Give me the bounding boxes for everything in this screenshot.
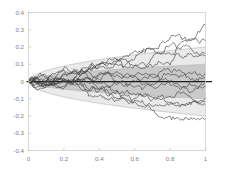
ytick-label-5: -0.1 — [13, 95, 24, 102]
ytick-label-7: -0.3 — [13, 129, 24, 136]
xtick-label-1: 0.2 — [60, 155, 69, 162]
ytick-label-8: -0.4 — [13, 147, 24, 154]
brownian-motion-chart: 0.40.30.20.10-0.1-0.2-0.3-0.400.20.40.60… — [0, 0, 229, 173]
ytick-label-0: 0.4 — [15, 9, 24, 16]
xtick-label-3: 0.6 — [130, 155, 139, 162]
ytick-label-1: 0.3 — [15, 26, 24, 33]
ytick-label-6: -0.2 — [13, 112, 24, 119]
xtick-label-4: 0.8 — [166, 155, 175, 162]
xtick-label-5: 1 — [204, 155, 208, 162]
ytick-label-4: 0 — [21, 78, 25, 85]
ytick-label-2: 0.2 — [15, 43, 24, 50]
xtick-label-0: 0 — [27, 155, 31, 162]
chart-figure: 0.40.30.20.10-0.1-0.2-0.3-0.400.20.40.60… — [0, 0, 229, 173]
xtick-label-2: 0.4 — [95, 155, 104, 162]
ytick-label-3: 0.1 — [15, 60, 24, 67]
